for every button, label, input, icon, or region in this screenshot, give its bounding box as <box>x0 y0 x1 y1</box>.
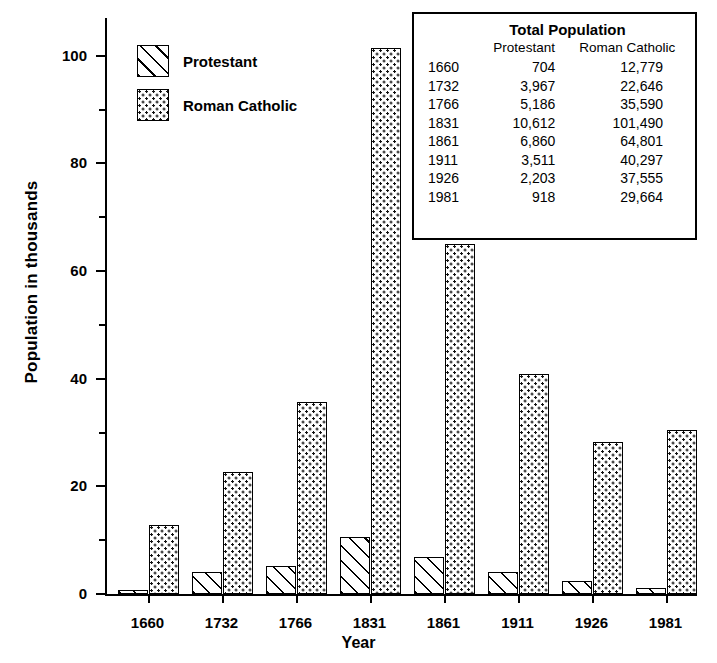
x-tick <box>518 594 520 603</box>
x-tick <box>592 594 594 603</box>
y-axis-title: Population in thousands <box>22 82 42 482</box>
y-tick-major <box>96 378 105 380</box>
y-tick-label: 100 <box>27 48 87 63</box>
y-tick-label: 60 <box>27 263 87 278</box>
table-header-row: Protestant Roman Catholic <box>424 40 685 58</box>
bar-1861-roman-catholic <box>445 244 475 594</box>
table-row: 18616,86064,801 <box>424 132 685 151</box>
x-tick-label-1732: 1732 <box>182 614 262 631</box>
y-axis-line <box>105 18 107 596</box>
table-cell-protestant: 6,860 <box>479 132 569 151</box>
table-cell-roman-catholic: 37,555 <box>569 169 685 188</box>
y-tick-minor <box>99 432 105 434</box>
x-tick-label-1660: 1660 <box>108 614 188 631</box>
table-cell-roman-catholic: 101,490 <box>569 114 685 133</box>
table-cell-protestant: 3,511 <box>479 151 569 170</box>
dotted-stipple-swatch-icon <box>137 89 169 121</box>
x-tick <box>444 594 446 603</box>
x-tick-label-1981: 1981 <box>626 614 706 631</box>
legend-label: Protestant <box>183 53 257 70</box>
table-cell-year: 1766 <box>424 95 479 114</box>
table-cell-year: 1732 <box>424 77 479 96</box>
table-cell-roman-catholic: 35,590 <box>569 95 685 114</box>
x-tick <box>296 594 298 603</box>
table-row: 166070412,779 <box>424 58 685 77</box>
table-row: 198191829,664 <box>424 188 685 207</box>
bar-1926-protestant <box>562 581 592 594</box>
x-axis-title: Year <box>0 634 717 652</box>
table-row: 17665,18635,590 <box>424 95 685 114</box>
table-header-year <box>424 40 479 58</box>
table-cell-roman-catholic: 40,297 <box>569 151 685 170</box>
y-tick-label: 0 <box>27 586 87 601</box>
x-tick-label-1911: 1911 <box>478 614 558 631</box>
total-population-table: Protestant Roman Catholic 166070412,7791… <box>424 40 685 206</box>
table-cell-year: 1911 <box>424 151 479 170</box>
x-tick <box>666 594 668 603</box>
table-cell-protestant: 704 <box>479 58 569 77</box>
legend-item-protestant: Protestant <box>137 45 297 77</box>
bar-1911-roman-catholic <box>519 374 549 594</box>
legend-item-roman-catholic: Roman Catholic <box>137 89 297 121</box>
bar-1660-protestant <box>118 590 148 594</box>
table-cell-year: 1981 <box>424 188 479 207</box>
table-cell-roman-catholic: 12,779 <box>569 58 685 77</box>
table-header-protestant: Protestant <box>479 40 569 58</box>
table-row: 19262,20337,555 <box>424 169 685 188</box>
y-tick-major <box>96 162 105 164</box>
bar-1981-protestant <box>636 588 666 594</box>
bar-1831-roman-catholic <box>371 48 401 594</box>
bar-1732-protestant <box>192 572 222 594</box>
table-cell-protestant: 3,967 <box>479 77 569 96</box>
table-cell-year: 1926 <box>424 169 479 188</box>
table-cell-protestant: 2,203 <box>479 169 569 188</box>
y-tick-minor <box>99 109 105 111</box>
bar-1926-roman-catholic <box>593 442 623 594</box>
table-cell-year: 1831 <box>424 114 479 133</box>
table-cell-protestant: 5,186 <box>479 95 569 114</box>
table-cell-protestant: 10,612 <box>479 114 569 133</box>
y-tick-label: 80 <box>27 155 87 170</box>
y-tick-major <box>96 593 105 595</box>
y-tick-label: 40 <box>27 371 87 386</box>
table-cell-roman-catholic: 22,646 <box>569 77 685 96</box>
y-tick-major <box>96 485 105 487</box>
bar-1660-roman-catholic <box>149 525 179 594</box>
table-cell-year: 1660 <box>424 58 479 77</box>
x-axis-line <box>105 594 697 596</box>
bar-1911-protestant <box>488 572 518 594</box>
table-cell-roman-catholic: 64,801 <box>569 132 685 151</box>
total-population-table-box: Total Population Protestant Roman Cathol… <box>412 12 697 240</box>
x-tick-label-1861: 1861 <box>404 614 484 631</box>
x-tick <box>222 594 224 603</box>
table-row: 183110,612101,490 <box>424 114 685 133</box>
bar-1831-protestant <box>340 537 370 594</box>
table-cell-roman-catholic: 29,664 <box>569 188 685 207</box>
y-tick-major <box>96 270 105 272</box>
bar-1766-roman-catholic <box>297 402 327 594</box>
bar-1861-protestant <box>414 557 444 594</box>
x-tick-label-1831: 1831 <box>330 614 410 631</box>
chart-legend: Protestant Roman Catholic <box>137 45 297 133</box>
x-tick-label-1766: 1766 <box>256 614 336 631</box>
table-title: Total Population <box>424 21 685 38</box>
y-tick-major <box>96 55 105 57</box>
y-tick-minor <box>99 216 105 218</box>
table-header-roman-catholic: Roman Catholic <box>569 40 685 58</box>
table-row: 17323,96722,646 <box>424 77 685 96</box>
x-tick <box>370 594 372 603</box>
y-tick-minor <box>99 324 105 326</box>
y-tick-minor <box>99 539 105 541</box>
bar-1766-protestant <box>266 566 296 594</box>
table-row: 19113,51140,297 <box>424 151 685 170</box>
legend-label: Roman Catholic <box>183 97 297 114</box>
y-tick-label: 20 <box>27 478 87 493</box>
table-cell-protestant: 918 <box>479 188 569 207</box>
table-body: 166070412,77917323,96722,64617665,18635,… <box>424 58 685 206</box>
diagonal-hatch-swatch-icon <box>137 45 169 77</box>
x-tick-label-1926: 1926 <box>552 614 632 631</box>
bar-1981-roman-catholic <box>667 430 697 594</box>
x-tick <box>148 594 150 603</box>
table-cell-year: 1861 <box>424 132 479 151</box>
bar-1732-roman-catholic <box>223 472 253 594</box>
